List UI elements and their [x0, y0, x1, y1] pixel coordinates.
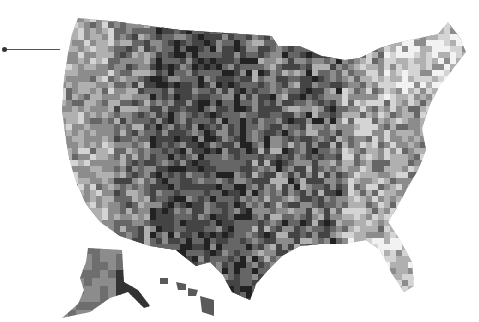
alaska-inset	[60, 246, 157, 322]
leader-line	[4, 49, 60, 50]
us-county-choropleth-map	[0, 0, 479, 322]
leader-dot-marker	[2, 47, 7, 52]
hawaii-inset	[150, 270, 220, 320]
